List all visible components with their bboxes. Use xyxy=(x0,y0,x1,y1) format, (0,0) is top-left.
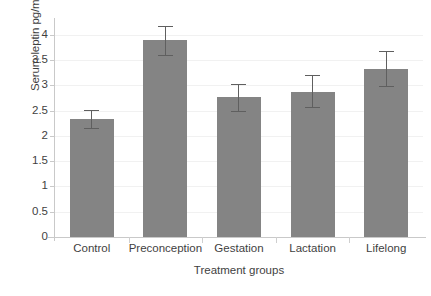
error-bar-cap-lower xyxy=(231,111,246,112)
bar xyxy=(217,97,261,237)
bar-group xyxy=(276,22,350,237)
y-axis-tick-label: 0.5 xyxy=(20,206,48,218)
error-bar-line xyxy=(312,75,313,107)
error-bar-cap-lower xyxy=(305,107,320,108)
bar xyxy=(291,92,335,237)
x-axis-tick-label: Control xyxy=(55,241,129,255)
error-bar-line xyxy=(238,84,239,111)
bar xyxy=(364,69,408,237)
bar-group xyxy=(202,22,276,237)
y-axis-tick-label: 3 xyxy=(20,79,48,91)
error-bar-cap-upper xyxy=(379,51,394,52)
x-axis-tick-label: Lactation xyxy=(276,241,350,255)
error-bar-cap-lower xyxy=(84,128,99,129)
x-axis-tick-label: Gestation xyxy=(202,241,276,255)
bar xyxy=(70,119,114,237)
bar-group xyxy=(55,22,129,237)
error-bar-cap-upper xyxy=(305,75,320,76)
y-axis-tick-label: 0 xyxy=(20,231,48,243)
y-axis-tick-label: 2.5 xyxy=(20,105,48,117)
error-bar-cap-upper xyxy=(158,26,173,27)
x-axis-tick-label: Preconception xyxy=(129,241,203,255)
plot-area xyxy=(55,22,423,237)
error-bar-cap-upper xyxy=(231,84,246,85)
y-axis-tick-label: 1 xyxy=(20,181,48,193)
x-axis-line xyxy=(48,237,426,238)
error-bar-cap-lower xyxy=(379,86,394,87)
y-axis-tick-label: 3.5 xyxy=(20,54,48,66)
error-bar-cap-lower xyxy=(158,55,173,56)
y-axis-tick-label: 2 xyxy=(20,130,48,142)
x-axis-title: Treatment groups xyxy=(55,264,423,276)
y-axis-tick-labels: 00.511.522.533.54 xyxy=(18,0,48,296)
error-bar-line xyxy=(165,26,166,55)
error-bar-cap-upper xyxy=(84,110,99,111)
x-axis-tick-label: Lifelong xyxy=(349,241,423,255)
error-bar-line xyxy=(386,51,387,86)
bar-chart: Serum leptin pg/ml 00.511.522.533.54 Con… xyxy=(0,0,431,296)
bar xyxy=(143,40,187,237)
bar-group xyxy=(129,22,203,237)
y-axis-tick-label: 4 xyxy=(20,29,48,41)
bar-group xyxy=(349,22,423,237)
y-axis-tick-label: 1.5 xyxy=(20,155,48,167)
error-bar-line xyxy=(91,110,92,129)
